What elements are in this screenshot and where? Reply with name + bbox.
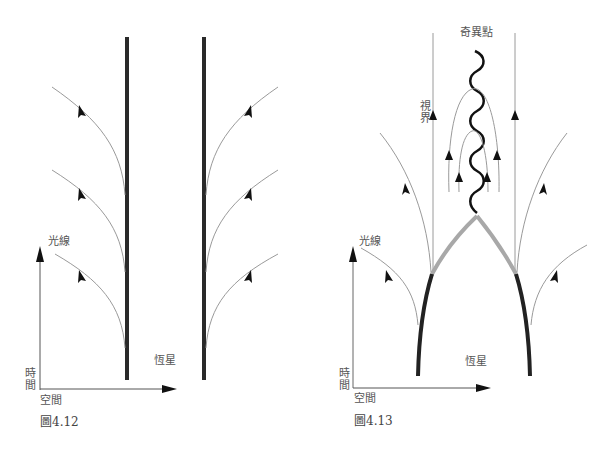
light-rays-left bbox=[52, 87, 125, 348]
figure-4-13 bbox=[349, 33, 587, 392]
trapped-ray-outer bbox=[449, 89, 499, 192]
singularity-label: 奇異點 bbox=[460, 27, 493, 38]
space-axis-arrow-icon bbox=[476, 384, 491, 392]
arrow-icon bbox=[550, 270, 558, 283]
ray-arrowheads bbox=[78, 105, 252, 283]
time-axis-label: 時間 bbox=[24, 368, 36, 392]
star-surface-right bbox=[516, 274, 530, 376]
light-ray bbox=[206, 254, 278, 348]
star-surface-left bbox=[418, 274, 432, 376]
horizon-arrow-icon bbox=[511, 110, 519, 120]
light-ray bbox=[531, 245, 587, 325]
escaping-light-rays bbox=[361, 133, 587, 325]
arrow-icon bbox=[402, 183, 410, 195]
light-rays-right bbox=[206, 87, 278, 348]
diagram-canvas bbox=[0, 0, 610, 451]
time-axis-label: 時間 bbox=[338, 368, 350, 392]
star-label: 恆星 bbox=[465, 356, 487, 367]
light-ray bbox=[55, 254, 125, 348]
figure-4-12 bbox=[36, 37, 278, 393]
arrow-icon bbox=[385, 270, 393, 283]
time-axis-arrow-icon bbox=[36, 246, 44, 262]
space-axis-label: 空間 bbox=[40, 395, 62, 406]
space-axis-label: 空間 bbox=[354, 393, 376, 404]
arrow-icon bbox=[455, 172, 463, 182]
light-ray bbox=[52, 87, 125, 195]
horizon-label: 視界 bbox=[419, 101, 431, 125]
trapped-light-rays bbox=[449, 89, 499, 192]
arrow-icon bbox=[539, 183, 547, 195]
space-axis-arrow-icon bbox=[162, 385, 177, 393]
arrow-icon bbox=[78, 105, 86, 118]
arrow-icon bbox=[445, 150, 453, 160]
light-ray bbox=[52, 170, 125, 272]
arrow-icon bbox=[244, 105, 252, 118]
figure-caption: 圖4.12 bbox=[40, 412, 79, 429]
arrow-icon bbox=[244, 270, 252, 283]
light-ray bbox=[517, 133, 567, 272]
star-label: 恆星 bbox=[154, 355, 176, 366]
star-surface-collapsed-right bbox=[477, 216, 516, 274]
star-surface-collapsed-left bbox=[432, 216, 477, 274]
light-ray-label: 光線 bbox=[359, 236, 381, 247]
light-ray bbox=[361, 248, 418, 325]
axes bbox=[36, 246, 177, 393]
figure-caption: 圖4.13 bbox=[354, 411, 393, 428]
light-ray bbox=[206, 87, 278, 195]
arrow-icon bbox=[493, 150, 501, 160]
light-ray bbox=[206, 170, 278, 272]
collapsing-star bbox=[418, 216, 530, 376]
light-ray-label: 光線 bbox=[48, 236, 70, 247]
light-ray bbox=[380, 133, 431, 272]
time-axis-arrow-icon bbox=[349, 246, 357, 262]
